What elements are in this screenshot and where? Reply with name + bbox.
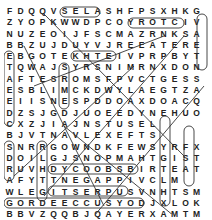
grid-cell[interactable]: E <box>125 40 136 51</box>
grid-cell[interactable]: O <box>158 96 169 107</box>
grid-cell[interactable]: E <box>4 51 15 62</box>
grid-cell[interactable]: I <box>169 153 180 164</box>
grid-cell[interactable]: D <box>103 96 114 107</box>
grid-cell[interactable]: R <box>37 142 48 153</box>
grid-cell[interactable]: Y <box>81 40 92 51</box>
grid-cell[interactable]: A <box>125 29 136 40</box>
grid-cell[interactable]: N <box>158 29 169 40</box>
grid-cell[interactable]: T <box>37 130 48 141</box>
grid-cell[interactable]: V <box>191 17 202 28</box>
grid-cell[interactable]: A <box>136 85 147 96</box>
grid-cell[interactable]: O <box>70 74 81 85</box>
grid-cell[interactable]: Y <box>125 17 136 28</box>
grid-cell[interactable]: S <box>180 74 191 85</box>
grid-cell[interactable]: Q <box>26 6 37 17</box>
grid-cell[interactable]: S <box>48 74 59 85</box>
grid-cell[interactable]: E <box>125 142 136 153</box>
grid-cell[interactable]: V <box>48 6 59 17</box>
grid-cell[interactable]: C <box>81 198 92 209</box>
grid-cell[interactable]: F <box>125 130 136 141</box>
grid-cell[interactable]: S <box>37 96 48 107</box>
grid-cell[interactable]: P <box>37 17 48 28</box>
grid-cell[interactable]: Z <box>26 29 37 40</box>
grid-cell[interactable]: G <box>158 153 169 164</box>
grid-cell[interactable]: D <box>136 198 147 209</box>
grid-cell[interactable]: O <box>92 153 103 164</box>
grid-cell[interactable]: A <box>59 119 70 130</box>
grid-cell[interactable]: R <box>92 187 103 198</box>
grid-cell[interactable] <box>180 119 191 130</box>
grid-cell[interactable]: S <box>103 6 114 17</box>
grid-cell[interactable]: S <box>147 130 158 141</box>
grid-cell[interactable]: C <box>169 17 180 28</box>
grid-cell[interactable]: G <box>4 198 15 209</box>
grid-cell[interactable]: J <box>81 209 92 220</box>
grid-cell[interactable]: O <box>26 17 37 28</box>
grid-cell[interactable]: H <box>37 164 48 175</box>
grid-cell[interactable]: G <box>37 187 48 198</box>
grid-cell[interactable]: S <box>92 29 103 40</box>
grid-cell[interactable]: R <box>147 164 158 175</box>
grid-cell[interactable]: B <box>4 209 15 220</box>
grid-cell[interactable]: E <box>59 198 70 209</box>
grid-cell[interactable]: S <box>26 108 37 119</box>
grid-cell[interactable]: A <box>180 164 191 175</box>
grid-cell[interactable]: I <box>48 85 59 96</box>
grid-cell[interactable]: G <box>26 51 37 62</box>
grid-cell[interactable]: G <box>48 153 59 164</box>
grid-cell[interactable]: A <box>92 175 103 186</box>
grid-cell[interactable]: P <box>103 175 114 186</box>
grid-cell[interactable]: V <box>136 175 147 186</box>
grid-cell[interactable]: Q <box>191 96 202 107</box>
grid-cell[interactable]: V <box>125 74 136 85</box>
grid-cell[interactable]: E <box>136 119 147 130</box>
grid-cell[interactable] <box>169 130 180 141</box>
grid-cell[interactable]: O <box>114 96 125 107</box>
grid-cell[interactable]: W <box>4 187 15 198</box>
grid-cell[interactable]: U <box>70 40 81 51</box>
grid-cell[interactable]: I <box>48 119 59 130</box>
grid-cell[interactable]: R <box>114 40 125 51</box>
grid-cell[interactable]: S <box>125 187 136 198</box>
grid-cell[interactable]: N <box>15 142 26 153</box>
grid-cell[interactable]: J <box>48 62 59 73</box>
grid-cell[interactable]: L <box>169 198 180 209</box>
grid-cell[interactable]: O <box>180 62 191 73</box>
grid-cell[interactable]: J <box>15 130 26 141</box>
grid-cell[interactable]: E <box>92 130 103 141</box>
grid-cell[interactable]: Y <box>136 108 147 119</box>
grid-cell[interactable]: C <box>70 85 81 96</box>
grid-cell[interactable]: S <box>103 198 114 209</box>
grid-cell[interactable]: A <box>169 96 180 107</box>
grid-cell[interactable]: U <box>37 40 48 51</box>
grid-cell[interactable]: O <box>180 198 191 209</box>
grid-cell[interactable]: S <box>125 119 136 130</box>
grid-cell[interactable]: Z <box>15 108 26 119</box>
grid-cell[interactable]: O <box>147 17 158 28</box>
grid-cell[interactable]: T <box>191 164 202 175</box>
grid-cell[interactable]: J <box>59 153 70 164</box>
grid-cell[interactable] <box>169 119 180 130</box>
grid-cell[interactable]: S <box>59 62 70 73</box>
grid-cell[interactable]: D <box>4 153 15 164</box>
grid-cell[interactable]: B <box>103 164 114 175</box>
grid-cell[interactable]: D <box>37 198 48 209</box>
grid-cell[interactable]: E <box>125 209 136 220</box>
grid-cell[interactable]: S <box>180 187 191 198</box>
grid-cell[interactable]: Q <box>92 209 103 220</box>
grid-cell[interactable]: M <box>59 85 70 96</box>
grid-cell[interactable]: C <box>103 17 114 28</box>
grid-cell[interactable]: O <box>191 108 202 119</box>
grid-cell[interactable]: Q <box>15 62 26 73</box>
grid-cell[interactable]: B <box>15 209 26 220</box>
grid-cell[interactable]: F <box>125 6 136 17</box>
grid-cell[interactable]: T <box>37 175 48 186</box>
grid-cell[interactable]: V <box>92 40 103 51</box>
grid-cell[interactable]: L <box>15 187 26 198</box>
grid-cell[interactable]: P <box>136 51 147 62</box>
grid-cell[interactable]: A <box>125 96 136 107</box>
grid-cell[interactable]: W <box>59 17 70 28</box>
grid-cell[interactable]: I <box>125 175 136 186</box>
grid-cell[interactable]: Y <box>59 164 70 175</box>
grid-cell[interactable]: T <box>103 119 114 130</box>
